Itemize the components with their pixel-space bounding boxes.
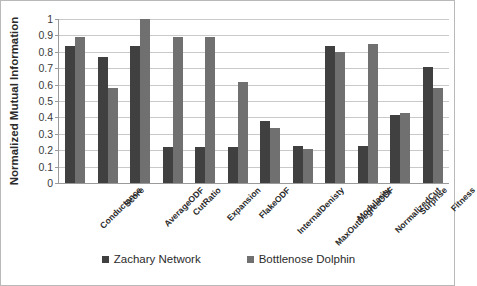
y-axis-tick-label: 0.4 — [23, 110, 53, 124]
legend-item[interactable]: Bottlenose Dolphin — [247, 253, 356, 265]
x-axis-tick-label: Fitness — [449, 185, 477, 213]
y-axis-tick-labels: 00.10.20.30.40.50.60.70.80.91 — [23, 12, 53, 190]
bar — [325, 46, 335, 183]
bar — [228, 147, 238, 183]
y-axis-tickmark — [55, 183, 59, 184]
bar-group — [417, 19, 450, 183]
bar — [98, 57, 108, 183]
y-axis-tick-label: 0.2 — [23, 143, 53, 157]
bars-layer — [59, 19, 449, 183]
bar — [293, 146, 303, 183]
legend-swatch-icon — [102, 256, 109, 263]
bar-group — [189, 19, 222, 183]
bar — [65, 46, 75, 183]
y-axis-tick-label: 0.6 — [23, 78, 53, 92]
legend-item[interactable]: Zachary Network — [102, 253, 201, 265]
y-axis-tick-label: 0.7 — [23, 61, 53, 75]
y-axis-tick-label: 1 — [23, 12, 53, 26]
bar-group — [352, 19, 385, 183]
bar — [303, 149, 313, 183]
bar — [368, 44, 378, 183]
x-axis-tick-label: FlakeODF — [257, 185, 292, 220]
bar — [195, 147, 205, 183]
bar-group — [124, 19, 157, 183]
bar-group — [222, 19, 255, 183]
bar — [108, 88, 118, 183]
bar — [163, 147, 173, 183]
bar — [433, 88, 443, 183]
bar — [400, 113, 410, 183]
legend-label: Bottlenose Dolphin — [259, 253, 356, 265]
bar — [358, 146, 368, 183]
bar — [260, 121, 270, 183]
bar-group — [157, 19, 190, 183]
bar — [205, 37, 215, 183]
legend-swatch-icon — [247, 256, 254, 263]
x-axis-tick-label: InternalDenisty — [296, 185, 347, 236]
y-axis-title: Normalized Mutual Information — [5, 19, 23, 183]
x-axis-tick-labels: ConductanceScoreAverageODFCutRatioExpans… — [58, 185, 448, 247]
bar-group — [287, 19, 320, 183]
bar-group — [59, 19, 92, 183]
chart-legend: Zachary NetworkBottlenose Dolphin — [1, 253, 456, 265]
bar — [335, 52, 345, 183]
bar-group — [319, 19, 352, 183]
bar — [390, 115, 400, 183]
plot-area — [58, 19, 449, 184]
bar — [173, 37, 183, 183]
bar — [75, 37, 85, 183]
bar — [140, 19, 150, 183]
bar — [238, 82, 248, 183]
y-axis-tick-label: 0.9 — [23, 28, 53, 42]
y-axis-tick-label: 0 — [23, 176, 53, 190]
y-axis-tick-label: 0.1 — [23, 160, 53, 174]
y-axis-tick-label: 0.5 — [23, 94, 53, 108]
bar-group — [92, 19, 125, 183]
bar — [130, 46, 140, 183]
bar-group — [384, 19, 417, 183]
y-axis-tick-label: 0.8 — [23, 45, 53, 59]
bar — [270, 128, 280, 183]
bar-group — [254, 19, 287, 183]
y-axis-tick-label: 0.3 — [23, 127, 53, 141]
bar — [423, 67, 433, 183]
x-axis-tick-label: Score — [122, 185, 146, 209]
x-axis-tick-label: Modularity — [355, 185, 393, 223]
legend-label: Zachary Network — [114, 253, 201, 265]
x-axis-tick-label: Expansion — [225, 185, 263, 223]
